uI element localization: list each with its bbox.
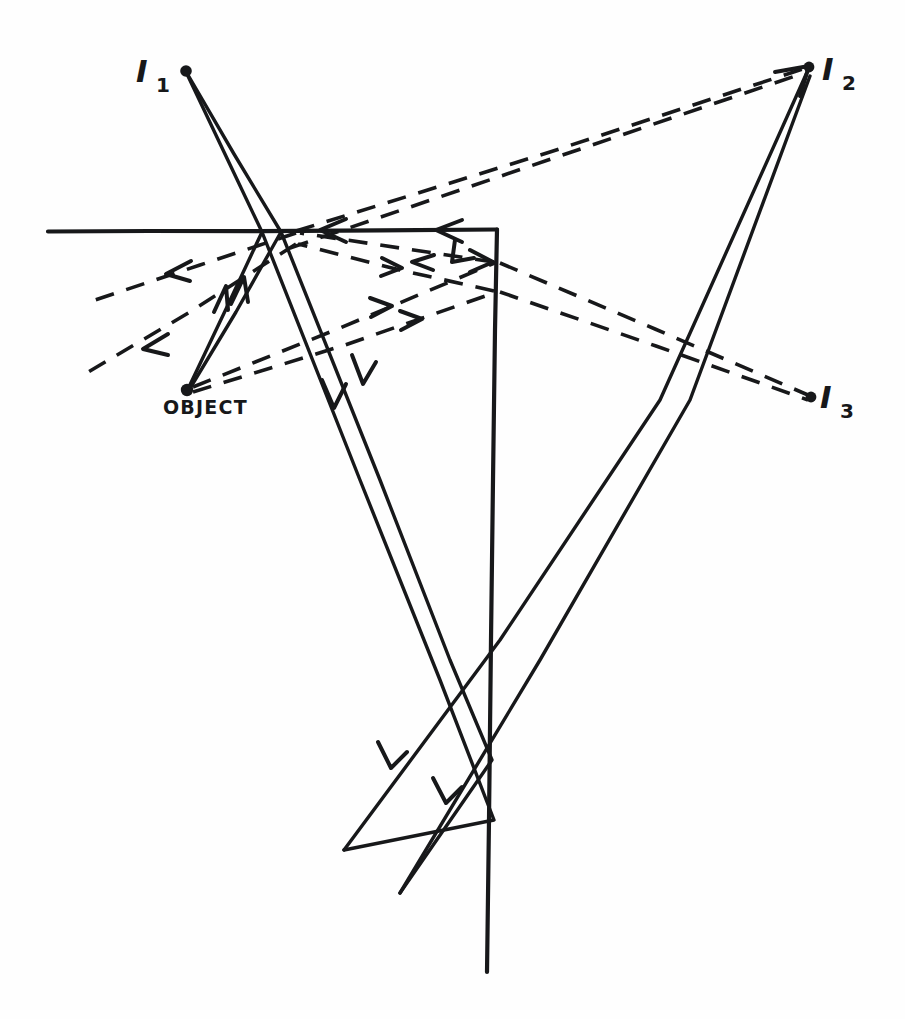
solid-virtual-i1-a: [187, 74, 262, 232]
solid-virtual-i1-b: [188, 75, 281, 232]
vertical-mirror: [487, 230, 497, 973]
label-object: OBJECT: [163, 396, 248, 418]
label-image3-subscript: 3: [840, 399, 854, 423]
image1-point-dot: [180, 65, 192, 77]
arrowhead-left-near-corner: [412, 255, 434, 270]
label-image1: I: [136, 53, 148, 89]
arrowhead-down-lower-a: [378, 742, 407, 768]
dash-vmirror-to-hmirror-lower: [298, 244, 494, 291]
solid-ray-group: [187, 70, 810, 893]
arrowhead-left-dash-upper: [166, 261, 191, 281]
label-image1-subscript: 1: [156, 73, 170, 97]
arrowhead-up-incident-a: [214, 286, 228, 312]
arrowhead-down-reflected-b: [352, 355, 376, 384]
dash-virtual-to-i2-lower: [290, 73, 804, 248]
dash-virtual-to-i3-upper: [500, 263, 808, 395]
solid-object-incident-b: [189, 232, 281, 390]
arrowhead-group: [143, 219, 493, 803]
mirror-group: [48, 230, 497, 973]
object-point-dot: [181, 384, 193, 396]
label-image3: I: [820, 379, 832, 415]
image3-point-dot: [806, 392, 817, 403]
ray-diagram-canvas: I 1 I 2 I 3 OBJECT: [0, 0, 905, 1019]
arrowhead-right-dash-upper: [370, 298, 392, 317]
horizontal-mirror: [48, 230, 497, 232]
optics-ray-diagram: I 1 I 2 I 3 OBJECT: [0, 0, 905, 1019]
label-image2: I: [822, 51, 834, 87]
dash-virtual-to-i3-lower: [500, 292, 808, 400]
label-image2-subscript: 2: [842, 71, 856, 95]
dash-virtual-to-i2-upper: [296, 68, 806, 231]
solid-reflected-a: [262, 232, 494, 850]
solid-virtual-i2-a: [344, 70, 808, 850]
